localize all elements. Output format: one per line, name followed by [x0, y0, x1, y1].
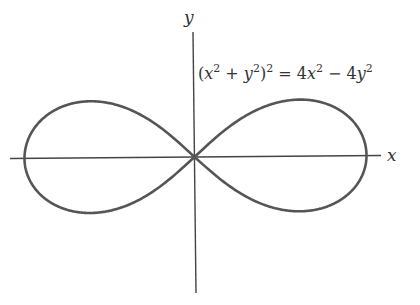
lemniscate-diagram: y x (x2 + y2)2 = 4x2 − 4y2 [0, 0, 420, 305]
y-axis [193, 32, 196, 293]
equation-label: (x2 + y2)2 = 4x2 − 4y2 [198, 62, 373, 83]
y-axis-label: y [183, 7, 194, 27]
x-axis-label: x [387, 145, 397, 165]
